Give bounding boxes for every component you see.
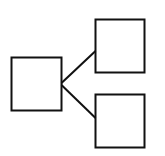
child-top-node-box bbox=[96, 20, 145, 73]
edge-root-to-bottom bbox=[62, 85, 96, 118]
tree-diagram bbox=[0, 0, 165, 156]
edge-root-to-top bbox=[62, 51, 96, 83]
child-bottom-node-box bbox=[96, 95, 145, 148]
root-node-box bbox=[12, 58, 62, 111]
